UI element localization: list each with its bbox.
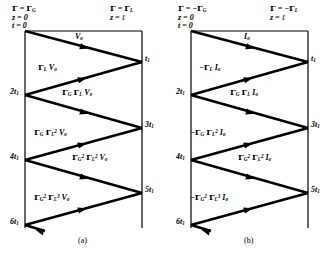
panel-a-zl: z = ℓ [110,14,133,22]
panel-a-wave-label-6: ΓG2 ΓL3 Vo [34,193,69,203]
panel-a: Γ = ΓG z = 0 t = 0 Γ = ΓL z = ℓ t1 2t1 3… [0,0,166,256]
panel-a-caption: (a) [78,237,87,245]
panel-a-tick-t1: t1 [145,55,150,64]
panel-a-wave-label-2: ΓL Vo [38,63,57,73]
panel-b-tick-3t1: 3t1 [311,121,320,130]
panel-a-tick-4t1: 4t1 [10,153,19,162]
panel-b-wave-label-3: ΓG ΓL Io [230,88,258,98]
panel-b: Γ = −ΓG z = 0 t = 0 Γ = −ΓL z = ℓ t1 2t1… [166,0,332,256]
panel-a-wave-label-4: ΓG ΓL2 Vo [34,128,67,138]
panel-a-wave-label-3: ΓG ΓL Vo [62,88,92,98]
panel-b-t0: t = 0 [178,22,207,30]
panel-a-t0: t = 0 [12,22,36,30]
bounce-diagram-figure: Γ = ΓG z = 0 t = 0 Γ = ΓL z = ℓ t1 2t1 3… [0,0,332,256]
panel-a-tick-2t1: 2t1 [10,88,19,97]
panel-b-tick-5t1: 5t1 [311,186,320,195]
panel-a-tick-3t1: 3t1 [145,121,154,130]
panel-a-header-left: Γ = ΓG z = 0 t = 0 [12,4,36,30]
panel-a-tick-5t1: 5t1 [145,186,154,195]
panel-b-header-left: Γ = −ΓG z = 0 t = 0 [178,4,207,30]
panel-a-wave-label-5: ΓG2 ΓL2 Vo [72,153,107,163]
panel-a-wave-label-1: Vo [75,33,83,42]
panel-b-caption: (b) [244,237,253,245]
panel-b-wave-label-2: −ΓL Io [199,63,220,73]
panel-b-tick-t1: t1 [311,55,316,64]
panel-b-tick-4t1: 4t1 [176,153,185,162]
panel-b-wave-label-6: −ΓG2 ΓL3 Io [190,193,228,203]
panel-a-header-right: Γ = ΓL z = ℓ [110,4,133,22]
panel-a-tick-6t1: 6t1 [10,218,19,227]
panel-b-tick-6t1: 6t1 [176,218,185,227]
panel-b-wave-label-5: ΓG2 ΓL2 Io [238,153,271,163]
panel-b-zl: z = ℓ [270,14,298,22]
panel-b-header-right: Γ = −ΓL z = ℓ [270,4,298,22]
panel-a-graphic [0,0,166,256]
panel-b-wave-label-1: Io [244,33,250,42]
panel-b-wave-label-4: −ΓG ΓL2 Io [190,128,225,138]
panel-b-tick-2t1: 2t1 [176,88,185,97]
